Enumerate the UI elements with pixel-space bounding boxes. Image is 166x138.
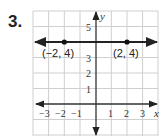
x-tick-neg2: −2 — [55, 108, 66, 119]
point-2-4 — [124, 39, 129, 44]
x-tick-2: 2 — [124, 108, 129, 119]
point-neg2-4 — [62, 39, 67, 44]
y-tick-5: 5 — [86, 22, 91, 33]
point-label-a: (−2, 4) — [42, 47, 74, 59]
y-axis-label: y — [99, 10, 105, 22]
coordinate-graph: (−2, 4) (2, 4) y x 5 3 2 1 −3 −2 −1 1 2 … — [0, 0, 166, 138]
x-tick-1: 1 — [108, 108, 113, 119]
y-tick-2: 2 — [86, 68, 91, 79]
point-label-b: (2, 4) — [113, 47, 139, 59]
x-tick-neg1: −1 — [71, 108, 82, 119]
x-tick-neg3: −3 — [39, 108, 50, 119]
y-tick-3: 3 — [86, 53, 91, 64]
y-tick-1: 1 — [86, 84, 91, 95]
x-axis-label: x — [153, 107, 159, 119]
x-tick-3: 3 — [140, 108, 145, 119]
